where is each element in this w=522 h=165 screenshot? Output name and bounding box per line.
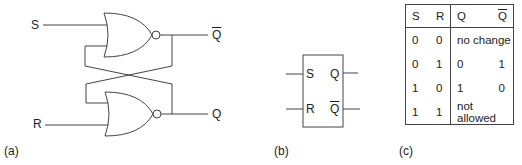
header-q-bar: Q (498, 10, 507, 22)
block-q-pin: Q (330, 68, 339, 80)
caption-c: (c) (399, 145, 413, 157)
cell-r: 1 (430, 52, 451, 76)
block-q-bar-pin: Q (330, 103, 339, 115)
truth-table: S R Q Q 0 0 no change 0 1 0 1 1 0 1 0 1 … (405, 4, 514, 125)
header-r: R (430, 5, 451, 28)
table-row: 1 0 1 0 (406, 76, 514, 100)
cell-s: 0 (406, 28, 431, 53)
top-nor-bubble (152, 31, 160, 39)
cell-q-bar: 1 (477, 52, 514, 76)
q-output-label: Q (212, 108, 221, 120)
block-r-pin: R (306, 103, 315, 115)
cell-result: no change (451, 28, 514, 53)
caption-b: (b) (274, 145, 289, 157)
r-input-label: R (33, 118, 42, 130)
block-s-pin: S (306, 68, 314, 80)
cell-s: 1 (406, 76, 431, 100)
cell-result: not allowed (451, 100, 514, 125)
table-row: 0 1 0 1 (406, 52, 514, 76)
top-nor-gate (104, 13, 152, 57)
cell-s: 0 (406, 52, 431, 76)
cell-q: 1 (451, 76, 477, 100)
header-s: S (406, 5, 431, 28)
cell-s: 1 (406, 100, 431, 125)
q-bar-output-label: Q (212, 29, 221, 41)
cell-r: 0 (430, 28, 451, 53)
caption-a: (a) (4, 145, 19, 157)
header-q: Q (451, 5, 477, 28)
table-row: 0 0 no change (406, 28, 514, 53)
cell-q: 0 (451, 52, 477, 76)
cell-q-bar: 0 (477, 76, 514, 100)
cell-r: 0 (430, 76, 451, 100)
s-input-label: S (31, 19, 39, 31)
bottom-nor-gate (105, 92, 153, 136)
bottom-nor-bubble (153, 110, 161, 118)
table-row: 1 1 not allowed (406, 100, 514, 125)
table-header-row: S R Q Q (406, 5, 514, 28)
cell-r: 1 (430, 100, 451, 125)
